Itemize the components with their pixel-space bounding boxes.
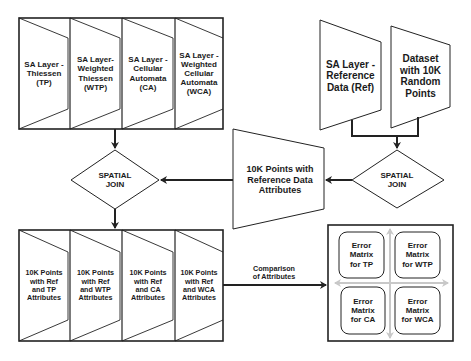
error-matrix-wca-label: Error Matrix for WCA — [395, 287, 440, 334]
spatial-join-right-label: SPATIAL JOIN — [362, 165, 432, 195]
bottom-layer-tp-label: 10K Points with Ref and TP Attributes — [19, 252, 69, 320]
error-matrix-ca-label: Error Matrix for CA — [341, 287, 385, 334]
bottom-layer-ca-label: 10K Points with Ref and CA Attributes — [122, 252, 174, 320]
bottom-layer-wca-label: 10K Points with Ref and WCA Attributes — [175, 252, 223, 320]
top-layer-ca-label: SA Layer - Cellular Automata (CA) — [122, 38, 174, 109]
reference-points-label: 10K Points with Reference Data Attribute… — [234, 160, 326, 200]
reference-layer-label: SA Layer - Reference Data (Ref) — [320, 42, 381, 110]
top-layer-tp-label: SA Layer - Thiessen (TP) — [19, 38, 69, 109]
top-layer-wca-label: SA Layer - Weighted Cellular Automata (W… — [175, 38, 223, 109]
error-matrix-tp-label: Error Matrix for TP — [339, 232, 384, 278]
spatial-join-left-label: SPATIAL JOIN — [80, 165, 150, 195]
random-dataset-label: Dataset with 10K Random Points — [391, 45, 450, 107]
bottom-layer-wtp-label: 10K Points with Ref and WTP Attributes — [70, 252, 121, 320]
comparison-label: Comparison of Attributes — [234, 263, 314, 283]
top-layer-wtp-label: SA Layer- Weighted Thiessen (WTP) — [70, 38, 121, 109]
error-matrix-wtp-label: Error Matrix for WTP — [395, 232, 440, 278]
